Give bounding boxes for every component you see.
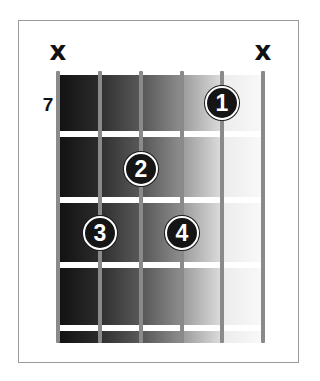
fret-line-4 xyxy=(60,325,262,331)
muted-marker-string-6: x xyxy=(251,38,275,64)
string-3 xyxy=(139,71,143,343)
gradient-column-2 xyxy=(100,75,141,343)
finger-2-dot: 2 xyxy=(124,152,158,186)
fret-line-3 xyxy=(60,262,262,268)
fret-line-1 xyxy=(60,131,262,137)
string-4 xyxy=(180,71,184,343)
finger-4-dot: 4 xyxy=(165,216,199,250)
muted-marker-string-1: x xyxy=(46,38,70,64)
starting-fret-label: 7 xyxy=(38,94,58,116)
finger-3-dot: 3 xyxy=(83,216,117,250)
string-2 xyxy=(98,71,102,343)
gradient-column-3 xyxy=(141,75,182,343)
fret-line-2 xyxy=(60,197,262,203)
finger-1-dot: 1 xyxy=(205,86,239,120)
string-6 xyxy=(261,71,265,343)
gradient-column-1 xyxy=(58,75,100,343)
